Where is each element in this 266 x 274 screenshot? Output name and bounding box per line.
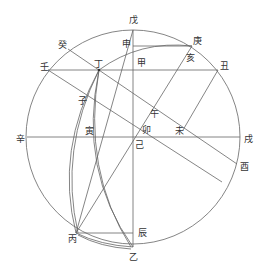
- label-yi: 乙: [129, 253, 138, 262]
- label-hai: 亥: [186, 54, 195, 63]
- diagram-canvas: 戊 申 庚 癸 壬 丁 甲 亥 丑 子 午 寅 卯 未 辛 己 戌 酉 辰 丙 …: [0, 0, 266, 274]
- label-wei: 未: [175, 127, 184, 136]
- label-geng: 庚: [193, 37, 202, 46]
- lune-arc-inner-1: [93, 70, 133, 247]
- label-wu-noon: 午: [150, 110, 159, 119]
- label-gui: 癸: [58, 41, 67, 50]
- label-xu: 戌: [244, 135, 253, 144]
- label-chen: 辰: [138, 229, 147, 238]
- label-mao: 卯: [142, 126, 151, 135]
- label-ren: 壬: [40, 63, 49, 72]
- label-chou: 丑: [220, 62, 229, 71]
- arc-ding-geng: [99, 45, 192, 70]
- geometry-figure: [0, 0, 266, 274]
- line-ren-wei: [48, 70, 222, 182]
- label-jia: 甲: [137, 59, 146, 68]
- label-yin: 寅: [85, 127, 94, 136]
- label-shen: 申: [122, 40, 131, 49]
- label-xin: 辛: [16, 135, 25, 144]
- label-ji: 己: [135, 141, 144, 150]
- label-bing: 丙: [68, 235, 77, 244]
- lune-arc-inner-2: [95, 70, 131, 247]
- label-wu-top: 戊: [129, 16, 138, 25]
- label-you: 酉: [240, 163, 249, 172]
- point-ding: [98, 69, 101, 72]
- label-ding: 丁: [94, 60, 103, 69]
- label-zi: 子: [78, 97, 87, 106]
- line-chou-wei: [183, 70, 218, 130]
